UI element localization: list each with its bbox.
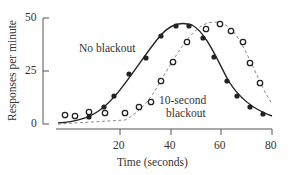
x-tick-60: 60 [214, 139, 226, 152]
y-tick-0: 0 [31, 117, 37, 130]
annotation-no-blackout: No blackout [79, 42, 136, 55]
annotation-blackout-line2: blackout [166, 107, 206, 120]
y-tick-25: 25 [25, 64, 37, 77]
x-axis-label: Time (seconds) [117, 156, 188, 169]
x-tick-20: 20 [113, 139, 125, 152]
no-blackout-curve [58, 23, 272, 123]
annotation-blackout-line1: 10-second [159, 94, 206, 107]
y-tick-50: 50 [25, 11, 37, 24]
x-tick-40: 40 [164, 139, 176, 152]
x-tick-80: 80 [265, 139, 277, 152]
y-axis-label: Responses per minute [6, 11, 19, 131]
blackout-curve [58, 22, 272, 124]
chart-plot [0, 0, 290, 175]
